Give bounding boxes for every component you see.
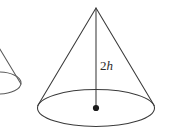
cone-diagram-canvas: 2h xyxy=(0,0,169,140)
partial-cone-slant-line xyxy=(0,46,21,84)
height-label-variable: h xyxy=(107,58,114,73)
cone-diagram-svg: 2h xyxy=(0,0,169,140)
cone-left-slant-edge xyxy=(38,8,96,106)
cone-height-label: 2h xyxy=(100,58,113,73)
main-cone: 2h xyxy=(38,8,155,127)
partial-cone-left xyxy=(0,46,21,94)
cone-right-slant-edge xyxy=(96,8,154,106)
cone-base-center-dot xyxy=(93,105,99,111)
partial-cone-base-ellipse xyxy=(0,72,21,94)
